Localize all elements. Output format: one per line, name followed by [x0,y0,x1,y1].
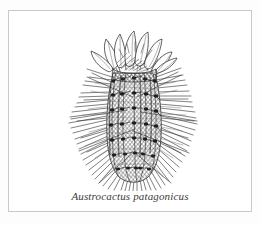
figure-area [9,11,251,191]
cactus-illustration [9,11,251,191]
figure-caption: Austrocactus patagonicus [9,190,251,202]
illustration-plate: Austrocactus patagonicus [0,0,260,225]
